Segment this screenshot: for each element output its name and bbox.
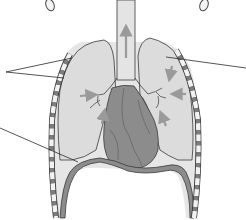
thorax-diagram [0, 0, 246, 220]
right-clavicle-end [198, 0, 210, 12]
left-clavicle-end [44, 0, 56, 12]
diaphragm [60, 158, 194, 218]
left-bronchi-arrow [80, 95, 92, 96]
leader-left-upper-2 [6, 72, 64, 78]
